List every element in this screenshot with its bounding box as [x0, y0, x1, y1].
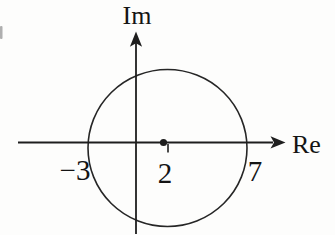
right-intercept-label: 7 — [248, 155, 263, 187]
complex-plane-canvas: Im Re −3 2 7 — [0, 0, 335, 235]
re-axis-label: Re — [292, 130, 321, 159]
scan-edge-artifact — [0, 26, 3, 39]
center-value-label: 2 — [158, 157, 173, 189]
center-point-dot — [160, 139, 167, 146]
complex-plane-figure: Im Re −3 2 7 — [0, 0, 335, 235]
im-axis-label: Im — [123, 1, 152, 30]
left-intercept-label: −3 — [60, 154, 91, 186]
